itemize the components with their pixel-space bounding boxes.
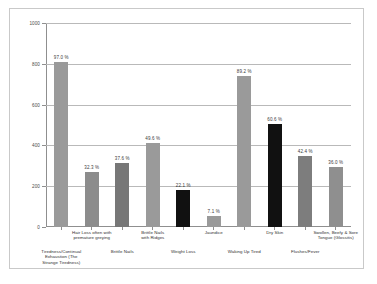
bar-value-label: 42.4 % [298,149,313,154]
bar[interactable]: 42.4 % [298,156,312,227]
bar[interactable]: 32.3 % [85,172,99,227]
bar-rect [268,124,282,227]
bar[interactable]: 97.0 % [54,62,68,227]
x-tick-label-line: Waking Up Tired [214,249,274,254]
y-tick-label: 0 [37,225,40,230]
bar[interactable]: 7.1 % [207,216,221,227]
bar-value-label: 7.1 % [208,209,220,214]
bar-value-label: 36.0 % [328,160,343,165]
x-tick-label-line: Tongue (Glossitis) [306,235,366,240]
bar[interactable]: 89.2 % [237,76,251,227]
x-tick-label-line: with Ridges [123,235,183,240]
y-tick-label: 800 [32,61,40,66]
bar-value-label: 22.1 % [176,183,191,188]
bar-value-label: 97.0 % [54,55,69,60]
bar-value-label: 37.6 % [115,156,130,161]
bar-rect [329,167,343,227]
y-tick-label: 400 [32,143,40,148]
x-tick-label-line: Strange Tiredness) [31,260,91,265]
bar-rect [207,216,221,227]
x-tick-label: Waking Up Tired [214,249,274,254]
bar-value-label: 32.3 % [84,165,99,170]
bar-series: 97.0 %32.3 %37.6 %49.6 %22.1 %7.1 %89.2 … [46,23,351,227]
bar-rect [115,163,129,227]
x-tick-label: Dry Skin [245,230,305,235]
x-tick-label-line: Weight Loss [153,249,213,254]
y-tick-label: 600 [32,102,40,107]
x-tick-label: Brittle Nails [92,249,152,254]
bar[interactable]: 60.6 % [268,124,282,227]
x-tick-label-line: Flushes/Fever [275,249,335,254]
bar[interactable]: 36.0 % [329,167,343,227]
bar-value-label: 49.6 % [145,136,160,141]
bar-rect [298,156,312,227]
bar[interactable]: 22.1 % [176,190,190,227]
bar[interactable]: 49.6 % [146,143,160,227]
x-tick-label: Flushes/Fever [275,249,335,254]
plot-area: 02004006008001000 97.0 %32.3 %37.6 %49.6… [46,23,351,227]
x-tick-label-line: premature greying [62,235,122,240]
bar-value-label: 89.2 % [237,69,252,74]
x-tick-label-line: Jaundice [184,230,244,235]
bar-rect [54,62,68,227]
bar-rect [146,143,160,227]
x-tick-label: Weight Loss [153,249,213,254]
x-tick-label-line: Dry Skin [245,230,305,235]
bar-rect [176,190,190,227]
bar[interactable]: 37.6 % [115,163,129,227]
bar-rect [85,172,99,227]
x-tick-label-line: Brittle Nails [92,249,152,254]
x-tick-label: Hair Loss often withpremature greying [62,230,122,241]
y-tick-label: 1000 [29,21,40,26]
bar-rect [237,76,251,227]
x-tick-label: Jaundice [184,230,244,235]
bar-value-label: 60.6 % [267,117,282,122]
y-tick-label: 200 [32,184,40,189]
x-tick-labels: Tiredness/ContinualExhaustion (TheStrang… [46,227,351,273]
x-tick-label: Swollen, Beefy & SoreTongue (Glossitis) [306,230,366,241]
x-tick-label: Tiredness/ContinualExhaustion (TheStrang… [31,249,91,265]
x-tick-label: Brittle Nailswith Ridges [123,230,183,241]
chart-frame: 02004006008001000 97.0 %32.3 %37.6 %49.6… [9,8,364,269]
